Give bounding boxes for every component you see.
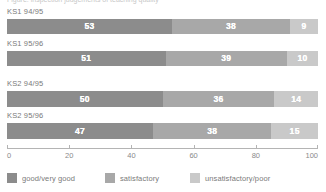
x-axis: [7, 148, 318, 149]
cropped-caption: Figure: inspection judgements of teachin…: [7, 0, 319, 4]
bar-segment: 39: [166, 51, 287, 66]
x-axis-tick-label: 60: [189, 151, 197, 160]
bar-segment: 50: [7, 91, 163, 107]
bar-segment-value: 38: [226, 22, 236, 31]
legend-item[interactable]: satisfactory: [105, 172, 159, 184]
stacked-bar-chart: Figure: inspection judgements of teachin…: [0, 0, 326, 192]
legend-swatch-icon: [7, 173, 17, 183]
legend-label: good/very good: [22, 174, 75, 183]
bar-segment-value: 39: [221, 54, 231, 63]
x-axis-tick: [256, 145, 257, 149]
bar-segment-value: 15: [290, 127, 300, 136]
bar-segment: 36: [163, 91, 275, 107]
stacked-bar-row: 503614: [7, 91, 318, 107]
stacked-bar-row: 53389: [7, 19, 318, 34]
bar-segment: 38: [172, 19, 290, 34]
legend-label: satisfactory: [120, 174, 159, 183]
bar-segment: 15: [271, 123, 318, 139]
bar-segment-value: 14: [291, 95, 301, 104]
x-axis-tick: [317, 145, 318, 149]
legend-item[interactable]: unsatisfactory/poor: [190, 172, 270, 184]
bar-row-label: KS1 95/96: [7, 39, 43, 48]
stacked-bar-row: 473815: [7, 123, 318, 139]
x-axis-tick-label: 100: [305, 151, 318, 160]
legend-swatch-icon: [190, 173, 200, 183]
x-axis-tick: [69, 145, 70, 149]
legend-item[interactable]: good/very good: [7, 172, 75, 184]
bar-segment: 53: [7, 19, 172, 34]
bar-segment-value: 38: [207, 127, 217, 136]
x-axis-tick: [194, 145, 195, 149]
bar-segment: 10: [287, 51, 318, 66]
x-axis-tick: [7, 145, 8, 149]
x-axis-tick: [131, 145, 132, 149]
bar-segment: 51: [7, 51, 166, 66]
bar-row-label: KS2 95/96: [7, 111, 43, 120]
bar-segment-value: 53: [84, 22, 94, 31]
bar-segment-value: 47: [75, 127, 85, 136]
bar-row-label: KS2 94/95: [7, 79, 43, 88]
bar-segment-value: 10: [297, 54, 307, 63]
legend-label: unsatisfactory/poor: [205, 174, 270, 183]
x-axis-tick-label: 80: [252, 151, 260, 160]
bar-segment-value: 9: [301, 22, 306, 31]
x-axis-tick-label: 20: [65, 151, 73, 160]
bar-segment-value: 50: [80, 95, 90, 104]
chart-legend: good/very goodsatisfactoryunsatisfactory…: [7, 172, 319, 186]
bar-segment: 14: [274, 91, 318, 107]
x-axis-tick-label: 40: [127, 151, 135, 160]
bar-row-label: KS1 94/95: [7, 7, 43, 16]
cropped-caption-text: Figure: inspection judgements of teachin…: [7, 0, 319, 3]
bar-segment-value: 51: [81, 54, 91, 63]
bar-segment: 9: [290, 19, 318, 34]
bar-segment: 38: [153, 123, 271, 139]
bar-segment: 47: [7, 123, 153, 139]
stacked-bar-row: 513910: [7, 51, 318, 66]
bar-segment-value: 36: [213, 95, 223, 104]
legend-swatch-icon: [105, 173, 115, 183]
x-axis-tick-label: 0: [7, 151, 11, 160]
